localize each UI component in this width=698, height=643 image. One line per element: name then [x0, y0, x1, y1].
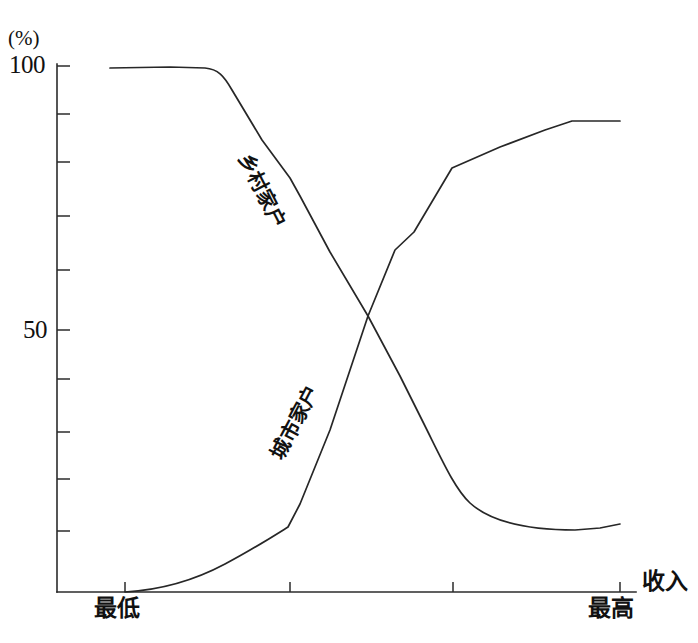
- x-axis-tick-label-highest: 最高: [588, 597, 634, 620]
- series-line-urban: [125, 121, 620, 592]
- y-axis-tick-label-50: 50: [23, 317, 47, 342]
- chart-plot-area: [0, 0, 698, 643]
- chart-container: (%) 100 50 最低 最高 收入 乡村家户 城市家户: [0, 0, 698, 643]
- y-axis-ticks: [57, 66, 70, 531]
- x-axis-tick-label-lowest: 最低: [94, 597, 140, 620]
- y-axis-unit-label: (%): [8, 28, 39, 49]
- x-axis-ticks: [125, 582, 620, 592]
- x-axis-title: 收入: [642, 570, 688, 593]
- y-axis-tick-label-100: 100: [9, 52, 45, 77]
- series-line-rural: [110, 67, 620, 530]
